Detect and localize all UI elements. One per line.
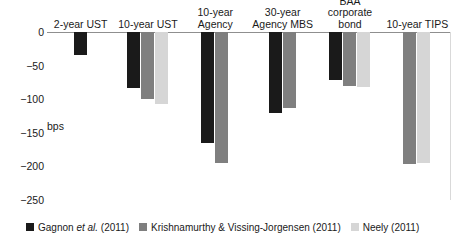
category-label: 10-year UST: [114, 19, 181, 31]
bar: [357, 32, 370, 87]
category-label-line2: Agency: [182, 19, 249, 31]
bar: [269, 32, 282, 113]
legend-item[interactable]: Gagnon et al. (2011): [26, 222, 129, 233]
y-tick-label: −50: [4, 61, 44, 71]
legend-item[interactable]: Neely (2011): [351, 222, 420, 233]
bar-group: [316, 32, 383, 200]
bar-group: [114, 32, 181, 200]
bar: [127, 32, 140, 88]
chart-root: 2-year UST10-year UST10-yearAgency30-yea…: [0, 0, 458, 240]
bar: [283, 32, 296, 108]
legend-label: Neely (2011): [363, 222, 420, 233]
category-axis: 2-year UST10-year UST10-yearAgency30-yea…: [47, 0, 451, 32]
legend-swatch-icon: [351, 223, 359, 231]
legend-swatch-icon: [139, 223, 147, 231]
category-label: 10-year TIPS: [384, 19, 451, 31]
bar: [201, 32, 214, 143]
category-label-line1: BAA corporate: [316, 0, 383, 19]
category-label: 30-yearAgency MBS: [249, 7, 316, 30]
legend-label-italic: et al.: [76, 222, 98, 233]
category-label: BAA corporatebond: [316, 0, 383, 30]
y-tick-label: −250: [4, 195, 44, 205]
bar-group: [47, 32, 114, 200]
y-tick-label: −100: [4, 94, 44, 104]
category-label-line2: Agency MBS: [249, 19, 316, 31]
bar: [343, 32, 356, 86]
plot-area: [47, 32, 451, 200]
y-tick-label: −200: [4, 161, 44, 171]
bar-group: [384, 32, 451, 200]
y-axis-ticks: 0−50−100−150−200−250: [0, 32, 44, 200]
category-label-line1: 10-year: [182, 7, 249, 19]
chart-legend: Gagnon et al. (2011)Krishnamurthy & Viss…: [26, 219, 446, 235]
y-tick-label: 0: [4, 27, 44, 37]
bar: [74, 32, 87, 55]
y-tick-label: −150: [4, 128, 44, 138]
category-label: 10-yearAgency: [182, 7, 249, 30]
legend-swatch-icon: [26, 223, 34, 231]
bar: [155, 32, 168, 104]
bar-group: [182, 32, 249, 200]
bar: [215, 32, 228, 163]
bar: [417, 32, 430, 163]
bar: [329, 32, 342, 80]
bar-group: [249, 32, 316, 200]
bar: [141, 32, 154, 99]
legend-label: Krishnamurthy & Vissing-Jorgensen (2011): [151, 222, 341, 233]
category-label: 2-year UST: [47, 19, 114, 31]
legend-label: Gagnon et al. (2011): [38, 222, 129, 233]
category-label-line1: 30-year: [249, 7, 316, 19]
bar: [403, 32, 416, 164]
category-label-line2: bond: [316, 19, 383, 31]
legend-item[interactable]: Krishnamurthy & Vissing-Jorgensen (2011): [139, 222, 341, 233]
